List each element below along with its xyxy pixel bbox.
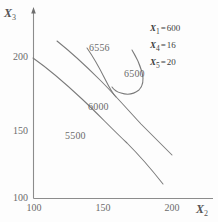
parameter-legend: X1=600 X4=16 X5=20 [150,22,180,71]
x-tick-label-150: 150 [90,202,116,213]
legend-value-x1: 600 [167,23,181,33]
legend-value-x4: 16 [167,40,176,50]
contour-label-6000: 6000 [88,101,109,112]
x-tick-label-100: 100 [21,202,47,213]
x-tick-label-200: 200 [159,202,185,213]
x-axis-title-sub: 2 [204,209,208,218]
contour-label-6500: 6500 [124,68,145,79]
y-tick-label-150: 150 [6,125,28,136]
contour-label-5500: 5500 [65,130,86,141]
legend-row-x5: X5=20 [150,56,180,72]
y-tick-label-200: 200 [6,51,28,62]
legend-eq-x5: = [160,57,167,67]
contour-plot-figure: X3 X2 200 150 100 100 150 200 6556 6500 … [0,0,218,222]
y-axis-title-sub: 3 [12,13,16,22]
plot-canvas [0,0,218,222]
legend-value-x5: 20 [167,57,176,67]
legend-row-x1: X1=600 [150,22,180,38]
x-axis-title: X2 [196,202,208,218]
y-axis-arrow-icon [31,7,36,14]
legend-eq-x1: = [160,23,167,33]
y-axis-title: X3 [4,6,16,22]
contour-curve-6556 [87,48,116,97]
legend-eq-x4: = [160,40,167,50]
legend-row-x4: X4=16 [150,39,180,55]
x-axis-title-var: X [196,202,204,216]
contour-label-6556: 6556 [89,42,110,53]
y-axis-title-var: X [4,6,12,20]
